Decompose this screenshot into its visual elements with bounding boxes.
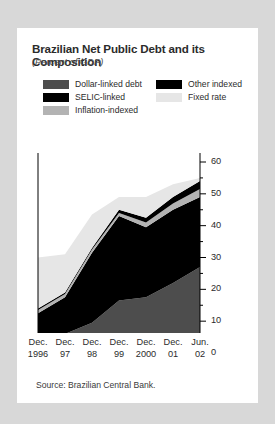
chart-legend: Dollar-linked debt SELIC-linked Inflatio…: [43, 79, 248, 119]
legend-label-fixed-rate: Fixed rate: [188, 93, 226, 102]
y-tick-label: 10: [211, 315, 233, 325]
legend-swatch-dollar-linked-debt: [43, 80, 69, 89]
chart-subtitle: (Percent of GDP): [32, 57, 103, 67]
legend-label-inflation-indexed: Inflation-indexed: [75, 106, 138, 115]
legend-label-selic-linked: SELIC-linked: [75, 93, 125, 102]
plot-area: 0102030405060: [17, 123, 258, 333]
x-tick-label: Jun.02: [183, 336, 217, 360]
legend-item-selic-linked: SELIC-linked: [43, 92, 125, 103]
legend-item-dollar-linked-debt: Dollar-linked debt: [43, 79, 142, 90]
legend-label-other-indexed: Other indexed: [188, 80, 242, 89]
y-tick-label: 50: [211, 188, 233, 198]
x-tick-label-line: 02: [183, 348, 217, 360]
legend-item-other-indexed: Other indexed: [156, 79, 242, 90]
y-tick-label: 40: [211, 220, 233, 230]
legend-item-fixed-rate: Fixed rate: [156, 92, 226, 103]
source-note: Source: Brazilian Central Bank.: [36, 380, 155, 390]
figure-card: Brazilian Net Public Debt and its Compos…: [17, 28, 258, 403]
legend-item-inflation-indexed: Inflation-indexed: [43, 105, 138, 116]
y-tick-label: 60: [211, 156, 233, 166]
y-tick-label: 20: [211, 283, 233, 293]
legend-swatch-other-indexed: [156, 80, 182, 89]
y-tick-label: 30: [211, 252, 233, 262]
x-axis-labels: Dec.1996Dec.97Dec.98Dec.99Dec.2000Dec.01…: [17, 336, 258, 370]
x-tick-label-line: Jun.: [183, 336, 217, 348]
legend-swatch-selic-linked: [43, 93, 69, 102]
legend-label-dollar-linked-debt: Dollar-linked debt: [75, 80, 142, 89]
legend-swatch-inflation-indexed: [43, 106, 69, 115]
legend-swatch-fixed-rate: [156, 93, 182, 102]
